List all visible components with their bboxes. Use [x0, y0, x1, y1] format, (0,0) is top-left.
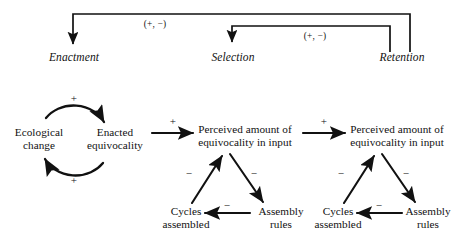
edge-label-retention-to-enactment-text: (+, −) [144, 19, 167, 29]
sign-assembly-to-cycles-2-text: − [376, 199, 383, 211]
node-ecological-change-line2: change [3, 139, 75, 152]
sign-cycles-to-perceived-1: − [177, 168, 201, 180]
process-label-retention: Retention [362, 51, 442, 63]
node-ecological-change-line1: Ecological [3, 126, 75, 139]
sign-assembly-to-cycles-1: − [215, 200, 239, 212]
sign-cycles-to-perceived-1-text: − [186, 167, 193, 179]
sign-loop-top: + [57, 93, 91, 105]
node-assembly-rules-2-line2: rules [398, 218, 454, 231]
node-perceived-amount-2-line2: equivocality in input [338, 136, 454, 149]
sign-perceived-to-assembly-2: − [394, 168, 418, 180]
sign-assembly-to-cycles-1-text: − [224, 199, 231, 211]
node-perceived-amount-2-line1: Perceived amount of [338, 123, 454, 136]
sign-loop-bottom: + [57, 175, 91, 187]
node-assembly-rules-1: Assembly rules [251, 205, 311, 230]
arrow-retention-to-enactment [73, 14, 410, 52]
process-label-enactment-text: Enactment [49, 51, 99, 63]
sign-perceived1-to-perceived2-text: + [321, 115, 328, 127]
sign-perceived-to-assembly-1: − [242, 168, 266, 180]
node-perceived-amount-1-line1: Perceived amount of [186, 123, 304, 136]
diagram-canvas: Enactment Selection Retention (+, −) (+,… [0, 0, 454, 240]
sign-perceived-to-assembly-2-text: − [403, 167, 410, 179]
node-cycles-assembled-2-line1: Cycles [307, 205, 369, 218]
node-assembly-rules-2-line1: Assembly [398, 205, 454, 218]
sign-enacted-to-perceived-1: + [156, 116, 190, 128]
process-label-selection-text: Selection [211, 51, 254, 63]
node-enacted-equivocality-line2: equivocality [76, 139, 154, 152]
node-cycles-assembled-2: Cycles assembled [307, 205, 369, 230]
node-cycles-assembled-1-line2: assembled [155, 218, 217, 231]
sign-loop-bottom-text: + [71, 174, 78, 186]
node-ecological-change: Ecological change [3, 126, 75, 151]
node-assembly-rules-2: Assembly rules [398, 205, 454, 230]
sign-cycles-to-perceived-2-text: − [338, 167, 345, 179]
process-label-enactment: Enactment [33, 51, 115, 63]
sign-enacted-to-perceived-1-text: + [170, 115, 177, 127]
node-cycles-assembled-1: Cycles assembled [155, 205, 217, 230]
node-cycles-assembled-1-line1: Cycles [155, 205, 217, 218]
node-enacted-equivocality-line1: Enacted [76, 126, 154, 139]
edge-label-retention-to-selection: (+, −) [285, 31, 345, 41]
sign-loop-top-text: + [71, 92, 78, 104]
process-label-retention-text: Retention [380, 51, 425, 63]
edge-label-retention-to-enactment: (+, −) [125, 19, 185, 29]
sign-perceived-to-assembly-1-text: − [251, 167, 258, 179]
node-perceived-amount-1: Perceived amount of equivocality in inpu… [186, 123, 304, 148]
sign-perceived1-to-perceived2: + [307, 116, 341, 128]
sign-assembly-to-cycles-2: − [367, 200, 391, 212]
node-perceived-amount-1-line2: equivocality in input [186, 136, 304, 149]
node-perceived-amount-2: Perceived amount of equivocality in inpu… [338, 123, 454, 148]
node-enacted-equivocality: Enacted equivocality [76, 126, 154, 151]
sign-cycles-to-perceived-2: − [329, 168, 353, 180]
process-label-selection: Selection [193, 51, 273, 63]
node-assembly-rules-1-line1: Assembly [251, 205, 311, 218]
node-cycles-assembled-2-line2: assembled [307, 218, 369, 231]
node-assembly-rules-1-line2: rules [251, 218, 311, 231]
edge-label-retention-to-selection-text: (+, −) [304, 31, 327, 41]
arrow-ecological-to-enacted [46, 105, 104, 122]
